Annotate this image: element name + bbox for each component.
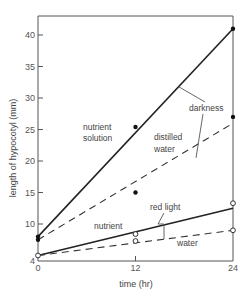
data-point-filled [231, 115, 235, 119]
y-tick-label: 30 [25, 93, 35, 103]
series-line-1 [38, 123, 233, 240]
annotation-distilled-water-line2: water [153, 144, 175, 154]
x-tick-label: 24 [228, 263, 238, 273]
series-line-0 [38, 29, 233, 237]
series-lines [38, 29, 233, 256]
darkness-leader-upper [179, 87, 205, 102]
y-tick-label: 10 [25, 219, 35, 229]
x-tick-label: 0 [35, 263, 40, 273]
annotation-darkness: darkness [189, 103, 224, 113]
data-point-filled [133, 125, 137, 129]
annotation-red-light: red light [150, 202, 181, 212]
y-tick-label: 15 [25, 188, 35, 198]
data-point-filled [36, 238, 40, 242]
y-axis-label: length of hypocotyl (mm) [8, 99, 18, 198]
y-tick-label: 20 [25, 156, 35, 166]
annotation-nutrient: nutrient [94, 221, 123, 231]
data-point-open [231, 201, 236, 206]
data-point-open [133, 232, 138, 237]
plot-frame [38, 16, 233, 261]
data-point-filled [231, 27, 235, 31]
annotation-distilled-water-line1: distilled [154, 132, 183, 142]
x-axis-ticks: 01224 [35, 256, 238, 273]
data-point-open [133, 239, 138, 244]
data-point-open [231, 228, 236, 233]
data-point-filled [133, 190, 137, 194]
annotation-nutrient-solution-line2: solution [83, 133, 113, 143]
y-axis-ticks: 410152025303540 [25, 30, 43, 266]
y-tick-label: 35 [25, 62, 35, 72]
axes-frame [38, 16, 233, 261]
x-tick-label: 12 [130, 263, 140, 273]
x-axis-label: time (hr) [119, 279, 153, 289]
hypocotyl-growth-chart: 410152025303540 01224 time (hr) length o… [0, 0, 252, 304]
data-point-open [36, 253, 41, 258]
annotation-water: water [176, 238, 198, 248]
y-tick-label: 40 [25, 30, 35, 40]
y-tick-label: 25 [25, 125, 35, 135]
data-points [36, 27, 236, 258]
darkness-leader-lower [196, 114, 203, 158]
y-tick-label: 4 [30, 256, 35, 266]
annotation-nutrient-solution-line1: nutrient [83, 122, 112, 132]
